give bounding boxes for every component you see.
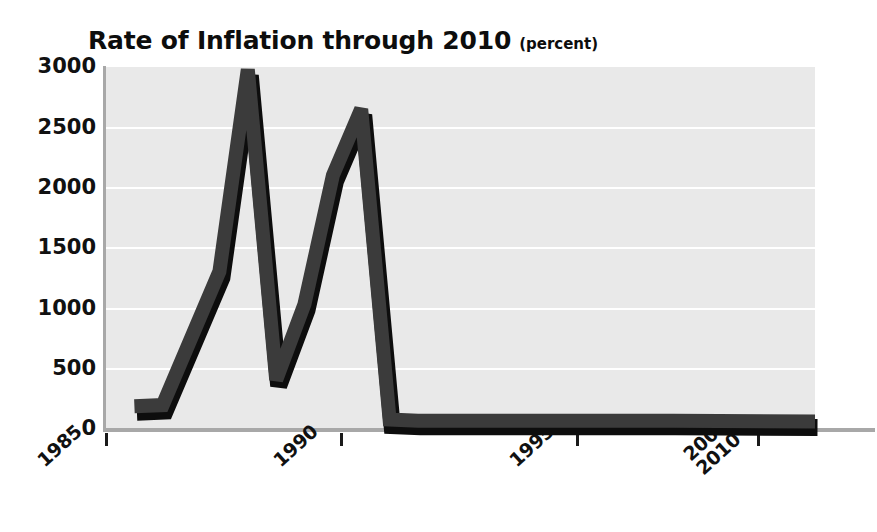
gridline-2000 <box>106 187 815 189</box>
x-axis-line <box>103 428 875 432</box>
chart-title-group: Rate of Inflation through 2010 (percent) <box>88 26 598 55</box>
y-tick-label-3000: 3000 <box>10 56 96 77</box>
y-tick-label-500: 500 <box>10 358 96 379</box>
x-tick-mark-1995 <box>576 433 579 446</box>
x-tick-mark-1990 <box>340 433 343 446</box>
x-tick-mark-1985 <box>105 433 108 446</box>
y-axis-line <box>103 66 106 429</box>
chart-subtitle-units: (percent) <box>519 35 598 53</box>
page-title: Rate of Inflation through 2010 <box>88 26 511 55</box>
y-tick-label-1500: 1500 <box>10 237 96 258</box>
chart-root: Rate of Inflation through 2010 (percent)… <box>0 0 877 532</box>
plot-area <box>106 67 815 428</box>
y-tick-label-2500: 2500 <box>10 117 96 138</box>
gridline-1500 <box>106 247 815 249</box>
x-tick-mark-2000-2010 <box>757 433 760 446</box>
y-tick-label-2000: 2000 <box>10 177 96 198</box>
gridline-500 <box>106 368 815 370</box>
y-tick-label-1000: 1000 <box>10 298 96 319</box>
gridline-1000 <box>106 308 815 310</box>
gridline-2500 <box>106 127 815 129</box>
